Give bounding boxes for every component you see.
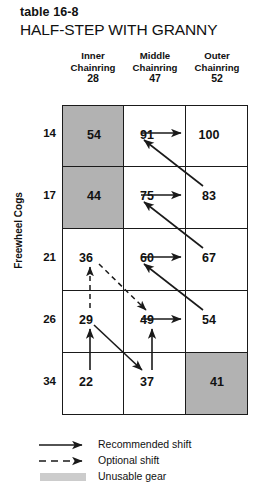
row-label-14: 14 xyxy=(26,127,56,139)
cell-14-inner[interactable]: 54 xyxy=(62,105,124,167)
cell-value: 60 xyxy=(124,251,170,265)
cell-value: 83 xyxy=(186,189,232,203)
cell-value: 37 xyxy=(124,375,170,389)
table-number: table 16-8 xyxy=(20,5,79,19)
cell-value: 36 xyxy=(63,251,109,265)
cell-value: 49 xyxy=(124,313,170,327)
dashed-arrow-icon xyxy=(38,453,90,469)
cell-value: 41 xyxy=(186,375,248,389)
cell-value: 54 xyxy=(186,313,232,327)
unusable-swatch-icon xyxy=(38,469,90,485)
cell-34-inner[interactable]: 22 xyxy=(62,353,124,415)
cell-value: 75 xyxy=(124,189,170,203)
legend-label-recommended: Recommended shift xyxy=(98,438,191,450)
legend-label-optional: Optional shift xyxy=(98,454,159,466)
cell-14-outer[interactable]: 100 xyxy=(186,105,248,167)
cell-value: 54 xyxy=(63,128,125,142)
cell-26-inner[interactable]: 29 xyxy=(62,291,124,353)
column-header-middle-name: Middle xyxy=(140,50,170,61)
column-header-middle-teeth: 47 xyxy=(124,73,186,85)
cell-21-inner[interactable]: 36 xyxy=(62,229,124,291)
cell-value: 29 xyxy=(63,313,109,327)
y-axis-label: Freewheel Cogs xyxy=(13,181,24,281)
column-header-outer-teeth: 52 xyxy=(186,73,248,85)
table-title: HALF-STEP WITH GRANNY xyxy=(20,21,217,39)
cell-17-outer[interactable]: 83 xyxy=(186,167,248,229)
cell-26-middle[interactable]: 49 xyxy=(124,291,186,353)
cell-value: 67 xyxy=(186,251,232,265)
legend-label-unusable: Unusable gear xyxy=(98,470,166,482)
row-label-34: 34 xyxy=(26,375,56,387)
column-header-outer-sub: Chainring xyxy=(195,62,240,73)
cell-17-inner[interactable]: 44 xyxy=(62,167,124,229)
row-label-17: 17 xyxy=(26,189,56,201)
column-header-outer: Outer Chainring 52 xyxy=(186,50,248,85)
cell-value: 91 xyxy=(124,128,170,142)
column-header-inner-teeth: 28 xyxy=(62,73,124,85)
column-header-inner: Inner Chainring 28 xyxy=(62,50,124,85)
column-header-inner-name: Inner xyxy=(81,50,104,61)
column-header-middle: Middle Chainring 47 xyxy=(124,50,186,85)
cell-value: 22 xyxy=(63,375,109,389)
cell-17-middle[interactable]: 75 xyxy=(124,167,186,229)
legend-row-unusable: Unusable gear xyxy=(38,469,248,485)
solid-arrow-icon xyxy=(38,437,90,453)
cell-14-middle[interactable]: 91 xyxy=(124,105,186,167)
column-header-outer-name: Outer xyxy=(204,50,230,61)
legend-row-recommended: Recommended shift xyxy=(38,437,248,453)
cell-34-outer[interactable]: 41 xyxy=(186,353,248,415)
gear-table-grid: 54 91 100 44 75 83 36 60 67 29 49 54 22 … xyxy=(62,105,248,415)
cell-21-middle[interactable]: 60 xyxy=(124,229,186,291)
table-figure: table 16-8 HALF-STEP WITH GRANNY Inner C… xyxy=(0,0,261,490)
column-header-inner-sub: Chainring xyxy=(71,62,116,73)
cell-26-outer[interactable]: 54 xyxy=(186,291,248,353)
cell-21-outer[interactable]: 67 xyxy=(186,229,248,291)
column-header-middle-sub: Chainring xyxy=(133,62,178,73)
legend-row-optional: Optional shift xyxy=(38,453,248,469)
cell-34-middle[interactable]: 37 xyxy=(124,353,186,415)
row-label-21: 21 xyxy=(26,251,56,263)
legend: Recommended shift Optional shift Unusabl… xyxy=(38,437,248,485)
row-label-26: 26 xyxy=(26,313,56,325)
cell-value: 100 xyxy=(186,128,232,142)
cell-value: 44 xyxy=(63,189,125,203)
